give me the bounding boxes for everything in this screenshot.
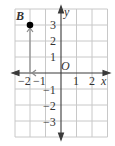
x-tick-2: 2 [89,74,95,88]
origin-label: O [61,59,70,73]
point-b [27,22,34,29]
y-tick-3: 3 [50,18,56,32]
y-tick-1: 1 [50,50,56,64]
y-axis-up-arrow-icon [59,6,64,13]
x-tick-1: 1 [73,74,79,88]
x-tick-neg1: −1 [33,74,46,88]
y-tick-neg3: −3 [43,115,56,129]
y-axis-label: y [63,5,70,19]
x-tick-neg2: −2 [18,74,31,88]
y-axis-down-arrow-icon [59,133,64,140]
x-axis-label: x [100,74,107,88]
translation-path [27,28,36,76]
point-b-label: B [15,9,24,23]
y-tick-2: 2 [50,34,56,48]
coordinate-plane: B y x O 3 2 1 −1 −2 −3 −2 −1 1 2 [0,0,115,146]
y-tick-neg2: −2 [43,99,56,113]
